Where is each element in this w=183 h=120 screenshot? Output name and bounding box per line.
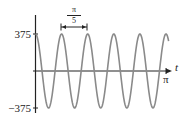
y-tick-label-bottom: −375 [1,103,31,114]
y-tick-label-top: 375 [1,29,31,40]
period-label: π 5 [67,6,81,25]
arrow-left-icon [62,25,66,29]
x-tick-label-pi: π [163,74,169,85]
x-axis-label: t [175,62,178,73]
arrow-right-icon [82,25,86,29]
period-denominator: 5 [67,16,81,25]
period-numerator: π [67,6,81,16]
